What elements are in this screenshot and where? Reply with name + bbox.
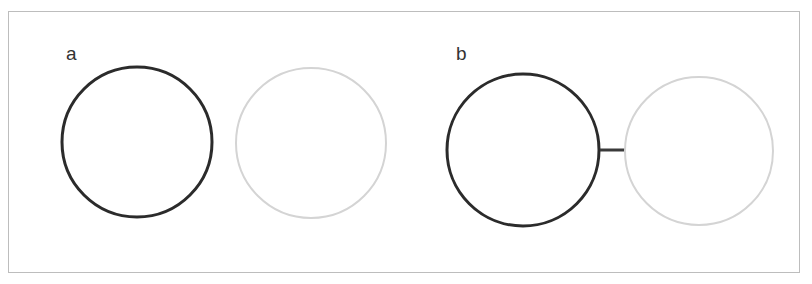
panel-a xyxy=(62,67,386,218)
panel-a-dark-circle xyxy=(62,67,212,217)
diagram-canvas xyxy=(0,0,812,284)
panel-b-dark-circle xyxy=(447,74,599,226)
panel-a-light-circle xyxy=(236,68,386,218)
panel-b-light-circle xyxy=(625,77,773,225)
panel-b xyxy=(447,74,773,226)
